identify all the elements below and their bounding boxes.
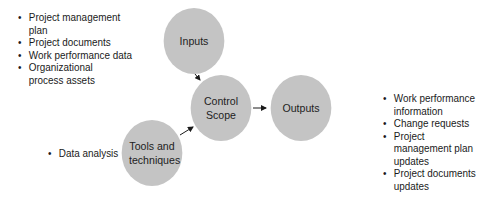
- arrow-tools-to-control: [180, 127, 193, 135]
- control-scope-node: Control Scope: [191, 75, 252, 141]
- control-scope-label: Control Scope: [201, 94, 241, 123]
- tools-node: Tools and techniques: [122, 120, 183, 186]
- tools-label: Tools and techniques: [129, 139, 175, 168]
- outputs-node: Outputs: [271, 75, 332, 141]
- outputs-label: Outputs: [282, 101, 319, 115]
- inputs-node: Inputs: [164, 8, 225, 74]
- inputs-label: Inputs: [180, 34, 209, 48]
